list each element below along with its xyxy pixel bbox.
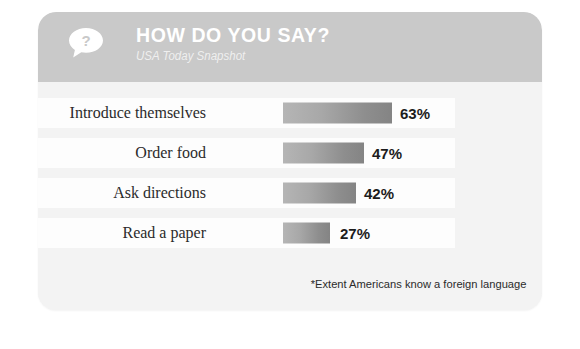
svg-text:?: ? — [81, 32, 90, 49]
screenshot-stage: ? HOW DO YOU SAY? USA Today Snapshot Int… — [0, 0, 580, 349]
chart-footnote: *Extent Americans know a foreign languag… — [310, 278, 526, 290]
bar-value-label: 42% — [364, 185, 394, 202]
bar-category-label: Introduce themselves — [70, 104, 206, 122]
chart-row: Introduce themselves 63% — [38, 98, 455, 128]
bar-category-label: Order food — [135, 144, 206, 162]
page-title: HOW DO YOU SAY? — [136, 22, 330, 47]
bar-category-label: Read a paper — [122, 224, 206, 242]
chart-row: Ask directions 42% — [38, 178, 455, 208]
bar-chart: Introduce themselves 63% Order food 47% … — [38, 82, 542, 310]
bar-value-label: 47% — [372, 145, 402, 162]
card-header: ? HOW DO YOU SAY? USA Today Snapshot — [38, 12, 542, 82]
bar-value-label: 63% — [400, 105, 430, 122]
bar-segment — [283, 183, 356, 204]
bar-value-label: 27% — [340, 225, 370, 242]
speech-bubble-question-icon: ? — [66, 26, 106, 60]
bar-segment — [283, 103, 392, 124]
header-inner: ? HOW DO YOU SAY? USA Today Snapshot — [66, 18, 542, 78]
page-subtitle: USA Today Snapshot — [136, 48, 336, 64]
snapshot-card: ? HOW DO YOU SAY? USA Today Snapshot Int… — [38, 12, 542, 310]
chart-row: Read a paper 27% — [38, 218, 455, 248]
bar-category-label: Ask directions — [113, 184, 206, 202]
chart-row: Order food 47% — [38, 138, 455, 168]
header-text-group: HOW DO YOU SAY? USA Today Snapshot — [136, 22, 345, 64]
bar-segment — [283, 223, 330, 244]
bar-segment — [283, 143, 364, 164]
